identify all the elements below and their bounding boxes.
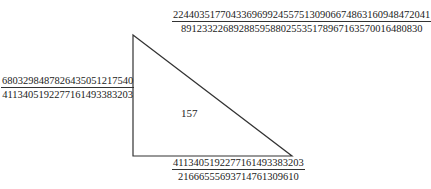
horizontal-leg-label: 4113405192277161493383203 21666555693714… (172, 157, 305, 182)
vertical-leg-numerator: 6803298487826435051217540 (1, 75, 134, 88)
right-triangle (133, 35, 292, 156)
horizontal-leg-denominator: 21666555693714761309610 (178, 170, 299, 182)
horizontal-leg-numerator: 4113405192277161493383203 (172, 157, 305, 170)
hypotenuse-label: 2244035177043369699245575130906674863160… (172, 9, 431, 34)
hypotenuse-numerator: 2244035177043369699245575130906674863160… (172, 9, 431, 22)
vertical-leg-label: 6803298487826435051217540 41134051922771… (1, 75, 134, 100)
hypotenuse-denominator: 8912332268928859588025535178967163570016… (181, 22, 423, 34)
area-label: 157 (181, 107, 198, 119)
vertical-leg-denominator: 4113405192277161493383203 (2, 88, 133, 100)
